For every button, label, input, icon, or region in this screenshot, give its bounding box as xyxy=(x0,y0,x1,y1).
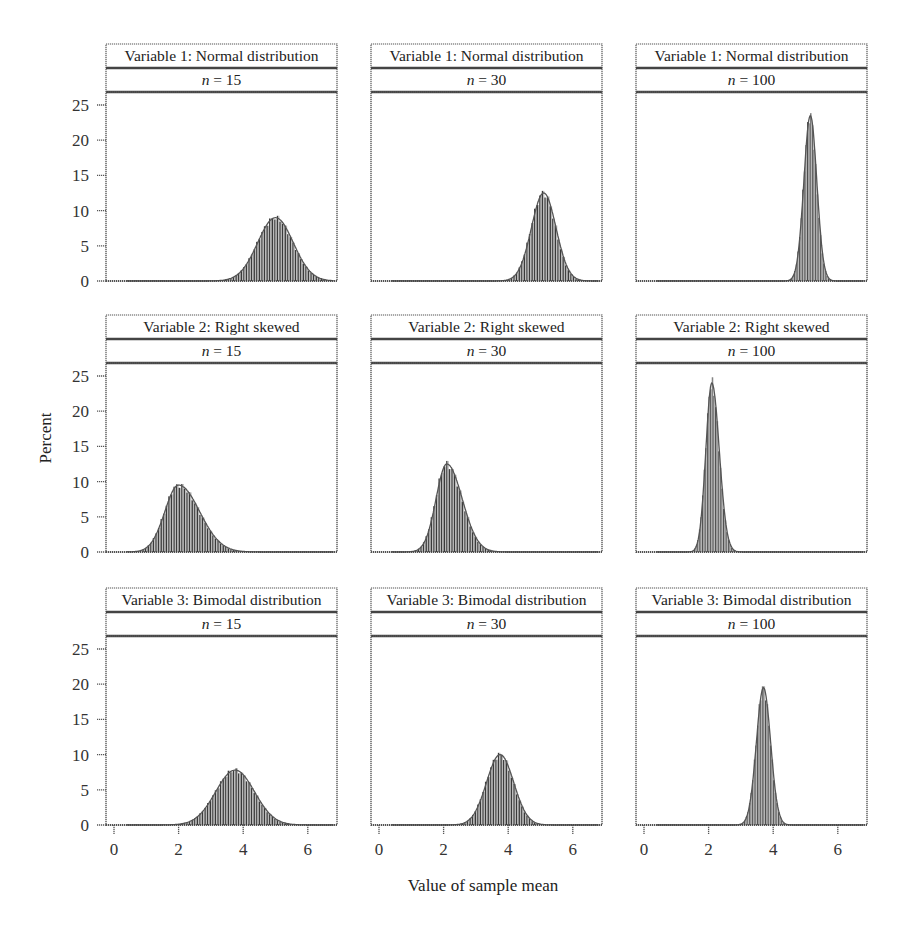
histogram-bar xyxy=(223,545,224,552)
histogram-bar xyxy=(709,397,710,552)
panel-sample-size: n = 100 xyxy=(728,615,776,632)
histogram-bar xyxy=(778,812,779,825)
histogram-bar xyxy=(277,216,278,281)
histogram-bar xyxy=(176,484,177,552)
histogram-bar xyxy=(282,224,283,281)
panel-sample-size: n = 100 xyxy=(728,71,776,88)
facet-panel: Variable 3: Bimodal distributionn = 30 xyxy=(371,588,602,825)
panel-sample-size: n = 15 xyxy=(202,342,242,359)
histogram-bar xyxy=(500,755,501,825)
histogram-bar xyxy=(511,778,512,825)
histogram-bar xyxy=(565,265,566,281)
histogram-bar xyxy=(712,377,713,552)
histogram-bar xyxy=(560,249,561,281)
y-tick-label: 20 xyxy=(72,402,89,421)
histogram-bar xyxy=(181,484,182,552)
y-tick-label: 25 xyxy=(72,367,89,386)
density-curve xyxy=(392,193,599,281)
x-axis-label: Value of sample mean xyxy=(408,876,559,895)
histogram-bar xyxy=(757,726,758,825)
histogram-bar xyxy=(815,164,816,281)
panel-title: Variable 2: Right skewed xyxy=(408,318,565,335)
histogram-bar xyxy=(251,788,252,825)
y-tick-label: 0 xyxy=(81,816,90,835)
histogram xyxy=(127,216,334,281)
plot-area xyxy=(371,363,602,552)
histogram-bar xyxy=(204,523,205,552)
histogram-bar xyxy=(290,237,291,281)
histogram-bar xyxy=(168,496,169,552)
histogram-bar xyxy=(279,222,280,281)
histogram xyxy=(657,686,865,825)
histogram-bar xyxy=(212,795,213,825)
histogram-bar xyxy=(472,532,473,552)
histogram-bar xyxy=(223,779,224,825)
x-tick-label: 4 xyxy=(504,840,513,859)
histogram-bar xyxy=(233,771,234,825)
histogram-bar xyxy=(300,259,301,281)
histogram-bar xyxy=(163,514,164,552)
panel-sample-size: n = 100 xyxy=(728,342,776,359)
histogram xyxy=(392,753,599,825)
histogram-bar xyxy=(490,767,491,825)
histogram-bar xyxy=(762,686,763,825)
histogram-bar xyxy=(259,239,260,281)
histogram-bar xyxy=(220,781,221,825)
panel-sample-size: n = 30 xyxy=(467,342,507,359)
facet-panel: Variable 2: Right skewedn = 30 xyxy=(371,315,602,552)
histogram-bar xyxy=(274,819,275,825)
histogram-bar xyxy=(498,753,499,825)
histogram-bar xyxy=(243,775,244,825)
density-curve xyxy=(657,383,864,552)
x-tick-label: 4 xyxy=(239,840,248,859)
histogram-bar xyxy=(773,780,774,825)
x-tick-label: 0 xyxy=(110,840,119,859)
histogram-bar xyxy=(303,264,304,281)
histogram-bar xyxy=(760,700,761,825)
density-curve xyxy=(392,464,599,552)
histogram-bar xyxy=(537,205,538,281)
histogram-bar xyxy=(184,489,185,552)
histogram-bar xyxy=(726,532,727,552)
histogram-bar xyxy=(767,704,768,825)
histogram-bar xyxy=(534,209,535,281)
y-tick-label: 15 xyxy=(72,166,89,185)
x-tick-label: 0 xyxy=(375,840,384,859)
histogram-bar xyxy=(550,206,551,281)
histogram-bar xyxy=(814,150,815,281)
histogram-bar xyxy=(488,777,489,825)
plot-area xyxy=(371,92,602,281)
plot-area xyxy=(106,363,337,552)
x-tick-label: 6 xyxy=(304,840,313,859)
histogram-bar xyxy=(292,243,293,281)
histogram-bar xyxy=(552,219,553,281)
facet-panel: Variable 3: Bimodal distributionn = 15 xyxy=(106,588,337,825)
histogram-bar xyxy=(305,267,306,281)
histogram-bar xyxy=(822,253,823,281)
histogram xyxy=(657,377,865,552)
facet-panel: Variable 1: Normal distributionn = 15 xyxy=(106,44,337,281)
histogram-bar xyxy=(562,257,563,281)
histogram-bar xyxy=(194,503,195,552)
histogram-bar xyxy=(266,226,267,281)
density-curve xyxy=(657,116,864,281)
histogram-bar xyxy=(449,469,450,552)
histogram-bar xyxy=(274,220,275,281)
y-tick-label: 20 xyxy=(72,675,89,694)
histogram-bar xyxy=(313,275,314,281)
histogram-bar xyxy=(272,817,273,825)
histogram-bar xyxy=(266,812,267,825)
histogram-bar xyxy=(261,232,262,281)
histogram-bar xyxy=(531,223,532,281)
histogram-bar xyxy=(723,509,724,552)
histogram-bar xyxy=(259,802,260,825)
y-tick-label: 10 xyxy=(72,202,89,221)
y-tick-label: 15 xyxy=(72,437,89,456)
histogram-bar xyxy=(480,545,481,552)
histogram-bar xyxy=(215,539,216,552)
histogram-bar xyxy=(477,542,478,552)
histogram xyxy=(392,461,599,552)
histogram-bar xyxy=(770,746,771,825)
histogram-bar xyxy=(710,389,711,552)
histogram-bar xyxy=(212,535,213,552)
